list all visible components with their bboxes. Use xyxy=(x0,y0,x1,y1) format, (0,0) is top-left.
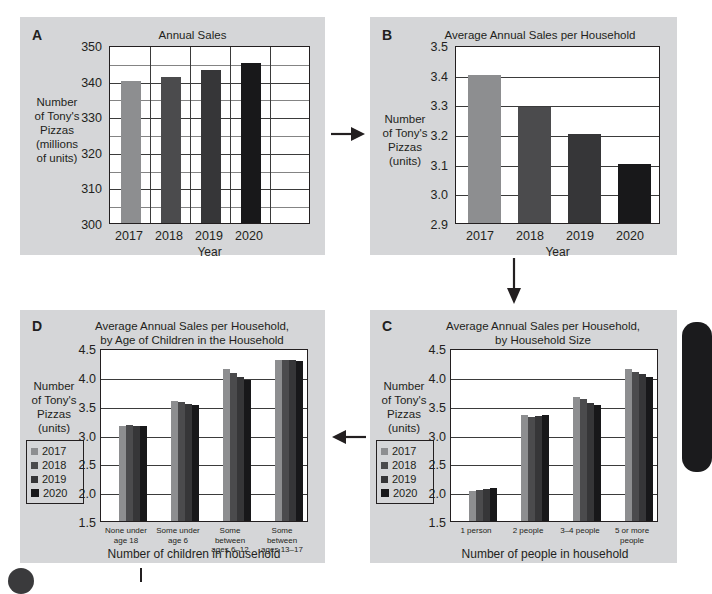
panel-d-ytick: 1.5 xyxy=(64,517,96,529)
page-rule-mark xyxy=(140,568,142,582)
panel-a-xtick: 2017 xyxy=(109,229,149,243)
panel-c-ytick: 4.0 xyxy=(414,373,446,385)
panel-d-xtick: Some under age 6 xyxy=(152,526,204,545)
bar-2019 xyxy=(535,416,542,522)
panel-b-ytick: 3.5 xyxy=(416,41,448,53)
panel-c-ytick: 4.5 xyxy=(414,344,446,356)
arrow-b-to-c xyxy=(505,258,523,304)
panel-a-ytick: 350 xyxy=(68,41,102,53)
page-edge-tab xyxy=(682,322,712,472)
legend-swatch-2017 xyxy=(31,448,38,455)
bar-2019 xyxy=(237,377,244,521)
vertical-divider xyxy=(230,47,231,223)
bar-2017 xyxy=(119,426,126,521)
panel-d-title-line: by Age of Children in the Household xyxy=(66,333,318,347)
vertical-divider xyxy=(190,47,191,223)
panel-b-x-axis-label: Year xyxy=(455,245,660,259)
bar-2018 xyxy=(161,77,181,223)
bar-2017 xyxy=(468,75,501,223)
panel-c-ytick: 3.0 xyxy=(414,431,446,443)
xtick-line: Some between xyxy=(204,526,256,545)
bar-2020 xyxy=(296,361,303,521)
legend-label: 2019 xyxy=(392,472,416,486)
legend-swatch-2020 xyxy=(381,489,389,497)
panel-b-xtick: 2019 xyxy=(555,229,605,243)
bar-2017 xyxy=(275,360,282,521)
bar-2019 xyxy=(133,426,140,521)
panel-a: A Annual Sales Number of Tony's Pizzas (… xyxy=(20,17,325,255)
bar-2018 xyxy=(230,373,237,521)
bar-2018 xyxy=(476,490,483,521)
panel-c-title-line: Average Annual Sales per Household, xyxy=(418,319,668,333)
panel-c-ytick: 2.5 xyxy=(414,459,446,471)
legend-label: 2018 xyxy=(392,458,416,472)
bar-2019 xyxy=(568,134,601,223)
legend-item: 2019 xyxy=(381,472,428,486)
bar-2019 xyxy=(185,404,192,521)
panel-d-ytick: 3.0 xyxy=(64,431,96,443)
panel-a-ytick: 340 xyxy=(68,77,102,89)
bar-2020 xyxy=(241,63,261,223)
panel-a-ytick: 320 xyxy=(68,148,102,160)
bar-2019 xyxy=(587,403,594,521)
legend-item: 2017 xyxy=(381,444,428,458)
bar-2019 xyxy=(483,489,490,521)
panel-c-ytick: 2.0 xyxy=(414,488,446,500)
panel-c-xtick: 3–4 people xyxy=(554,526,606,536)
panel-a-xtick: 2018 xyxy=(149,229,189,243)
panel-a-xtick: 2020 xyxy=(229,229,269,243)
panel-d-letter: D xyxy=(32,318,43,334)
xtick-line: age 18 xyxy=(100,536,152,546)
panel-d-plot xyxy=(100,349,308,522)
bar-2019 xyxy=(639,374,646,521)
panel-b-xtick: 2017 xyxy=(455,229,505,243)
legend-label: 2019 xyxy=(42,472,66,486)
panel-c-xtick: 5 or more people xyxy=(606,526,658,545)
panel-c-title-line: by Household Size xyxy=(418,333,668,347)
bar-2017 xyxy=(223,369,230,521)
panel-b-ytick: 3.4 xyxy=(416,71,448,83)
xtick-line: 2 people xyxy=(502,526,554,536)
panel-a-ytick: 310 xyxy=(68,183,102,195)
panel-b-xtick: 2018 xyxy=(505,229,555,243)
bar-2018 xyxy=(282,360,289,521)
panel-d-xtick: None under age 18 xyxy=(100,526,152,545)
bar-2020 xyxy=(542,415,549,521)
bar-2020 xyxy=(244,380,251,521)
panel-d-title: Average Annual Sales per Household, by A… xyxy=(66,319,318,347)
xtick-line: Some between xyxy=(256,526,308,545)
panel-a-ytick: 300 xyxy=(68,219,102,231)
ylabel-line: Number xyxy=(372,112,438,126)
panel-c-ytick: 1.5 xyxy=(414,517,446,529)
panel-d: D Average Annual Sales per Household, by… xyxy=(20,310,325,563)
ylabel-line: Pizzas xyxy=(24,123,90,137)
xtick-line: Some under xyxy=(152,526,204,536)
legend-item: 2019 xyxy=(31,472,78,486)
panel-b: B Average Annual Sales per Household Num… xyxy=(370,17,677,255)
gridline xyxy=(110,65,309,66)
bar-2018 xyxy=(178,402,185,521)
panel-a-title: Annual Sales xyxy=(70,28,315,42)
bar-2019 xyxy=(289,360,296,521)
panel-c-x-axis-label: Number of people in household xyxy=(420,547,670,561)
bar-2020 xyxy=(618,164,651,223)
legend-swatch-2018 xyxy=(31,462,38,469)
arrow-a-to-b xyxy=(331,125,365,143)
panel-b-ytick: 3.2 xyxy=(416,130,448,142)
panel-d-ytick: 4.5 xyxy=(64,344,96,356)
panel-b-ytick: 3.0 xyxy=(416,189,448,201)
bar-2017 xyxy=(469,491,476,521)
bar-2017 xyxy=(121,81,141,223)
bar-2017 xyxy=(171,401,178,521)
panel-a-plot xyxy=(109,46,310,224)
panel-c-xtick: 2 people xyxy=(502,526,554,536)
panel-c-plot xyxy=(450,349,658,522)
arrow-c-to-d xyxy=(332,428,366,446)
panel-c-letter: C xyxy=(382,318,393,334)
panel-d-x-axis-label: Number of children in household xyxy=(68,547,320,561)
legend-label: 2018 xyxy=(42,458,66,472)
bar-2018 xyxy=(528,417,535,521)
bar-2017 xyxy=(573,397,580,521)
xtick-line: None under xyxy=(100,526,152,536)
xtick-line: 1 person xyxy=(450,526,502,536)
